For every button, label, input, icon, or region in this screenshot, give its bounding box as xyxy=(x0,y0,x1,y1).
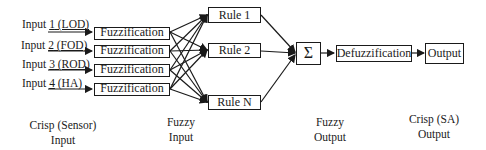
caption-crisp-output: Crisp (SA)Output xyxy=(406,112,462,142)
caption-fuzzy-output: FuzzyOutput xyxy=(310,115,350,145)
sum-box: Σ xyxy=(296,42,321,65)
fuzzification-box-1: Fuzzification xyxy=(94,27,170,40)
output-box: Output xyxy=(425,43,464,64)
fuzzy-to-rule-wires xyxy=(170,15,207,102)
fuzzification-box-2: Fuzzification xyxy=(94,45,170,58)
rule-box-n: Rule N xyxy=(208,95,261,110)
input-label-4: Input 4 (HA) xyxy=(22,78,82,90)
rule2-to-sum xyxy=(261,51,295,53)
sigma-icon: Σ xyxy=(304,45,313,61)
rule-box-1: Rule 1 xyxy=(208,7,261,23)
fuzzification-box-3: Fuzzification xyxy=(94,64,170,77)
caption-crisp-input: Crisp (Sensor)Input xyxy=(24,118,102,148)
rule-box-2: Rule 2 xyxy=(208,43,261,58)
defuzzification-box: Defuzzification xyxy=(336,45,412,62)
rule1-to-sum xyxy=(261,15,295,52)
ruleN-to-sum xyxy=(261,55,295,102)
fuzzification-box-4: Fuzzification xyxy=(94,83,170,96)
input-label-3: Input 3 (ROD) xyxy=(22,59,90,71)
input-label-2: Input 2 (FOD) xyxy=(21,40,87,52)
caption-fuzzy-input: FuzzyInput xyxy=(163,115,199,145)
input-label-1: Input 1 (LOD) xyxy=(22,19,89,31)
